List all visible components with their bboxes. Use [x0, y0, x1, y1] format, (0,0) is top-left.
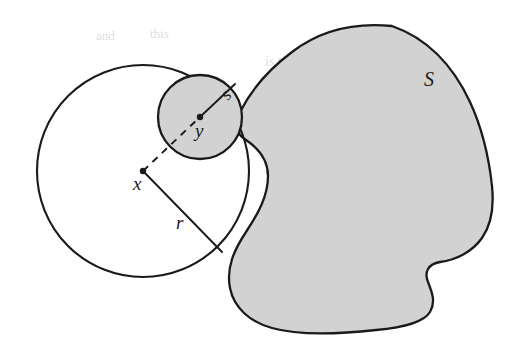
- label-region-S: S: [424, 68, 434, 90]
- bleed-through-text: this: [150, 26, 169, 41]
- label-y: y: [193, 120, 204, 141]
- label-x: x: [132, 173, 142, 194]
- bleed-through-text: and: [96, 28, 115, 43]
- figure-canvas: andpureis toof thethatmorewe canthethe s…: [0, 0, 521, 353]
- label-r: r: [176, 212, 184, 233]
